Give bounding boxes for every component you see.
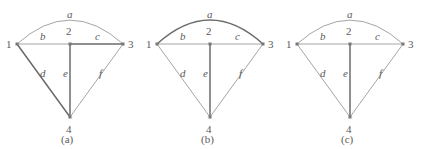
node-label-1: 1 (286, 39, 292, 50)
edge-label-d: d (40, 68, 46, 79)
node-label-1: 1 (146, 39, 152, 50)
edge-label-b: b (180, 31, 186, 42)
graph-edge-d (17, 44, 70, 117)
graph-panel-a: 1234abcdef(a) (0, 0, 140, 149)
edge-label-e: e (63, 68, 68, 79)
node-label-3: 3 (268, 39, 274, 50)
edge-label-a: a (347, 9, 353, 20)
graph-node-4 (69, 116, 72, 119)
graph-edge-f (70, 44, 123, 117)
edge-label-a: a (207, 9, 213, 20)
graph-edge-f (350, 44, 403, 117)
panel-caption: (c) (341, 134, 353, 145)
node-label-1: 1 (6, 39, 12, 50)
edge-label-a: a (67, 9, 73, 20)
node-label-2: 2 (206, 26, 212, 37)
node-label-2: 2 (346, 26, 352, 37)
graph-edge-f (210, 44, 263, 117)
graph-node-3 (122, 43, 125, 46)
edge-label-b: b (40, 31, 46, 42)
edge-label-b: b (320, 31, 326, 42)
node-label-3: 3 (128, 39, 134, 50)
graph-node-4 (349, 116, 352, 119)
graph-node-2 (349, 43, 352, 46)
node-label-2: 2 (66, 26, 72, 37)
edge-label-e: e (343, 68, 348, 79)
graph-node-3 (262, 43, 265, 46)
graph-node-2 (209, 43, 212, 46)
edge-label-f: f (239, 68, 242, 79)
node-label-3: 3 (408, 39, 414, 50)
edge-label-e: e (203, 68, 208, 79)
graph-node-3 (402, 43, 405, 46)
graph-node-1 (156, 43, 159, 46)
edge-label-f: f (379, 68, 382, 79)
edge-label-c: c (375, 31, 380, 42)
graph-edge-d (157, 44, 210, 117)
graph-panel-c: 1234abcdef(c) (280, 0, 420, 149)
graph-node-1 (16, 43, 19, 46)
graph-edge-d (297, 44, 350, 117)
graph-node-4 (209, 116, 212, 119)
graph-panel-b: 1234abcdef(b) (140, 0, 280, 149)
edge-label-f: f (99, 68, 102, 79)
edge-label-c: c (95, 31, 100, 42)
graph-node-1 (296, 43, 299, 46)
panel-caption: (a) (61, 134, 73, 145)
graph-node-2 (69, 43, 72, 46)
panel-caption: (b) (201, 134, 214, 145)
edge-label-d: d (320, 68, 326, 79)
edge-label-c: c (235, 31, 240, 42)
figure-panels-row: 1234abcdef(a)1234abcdef(b)1234abcdef(c) (0, 0, 421, 149)
edge-label-d: d (180, 68, 186, 79)
